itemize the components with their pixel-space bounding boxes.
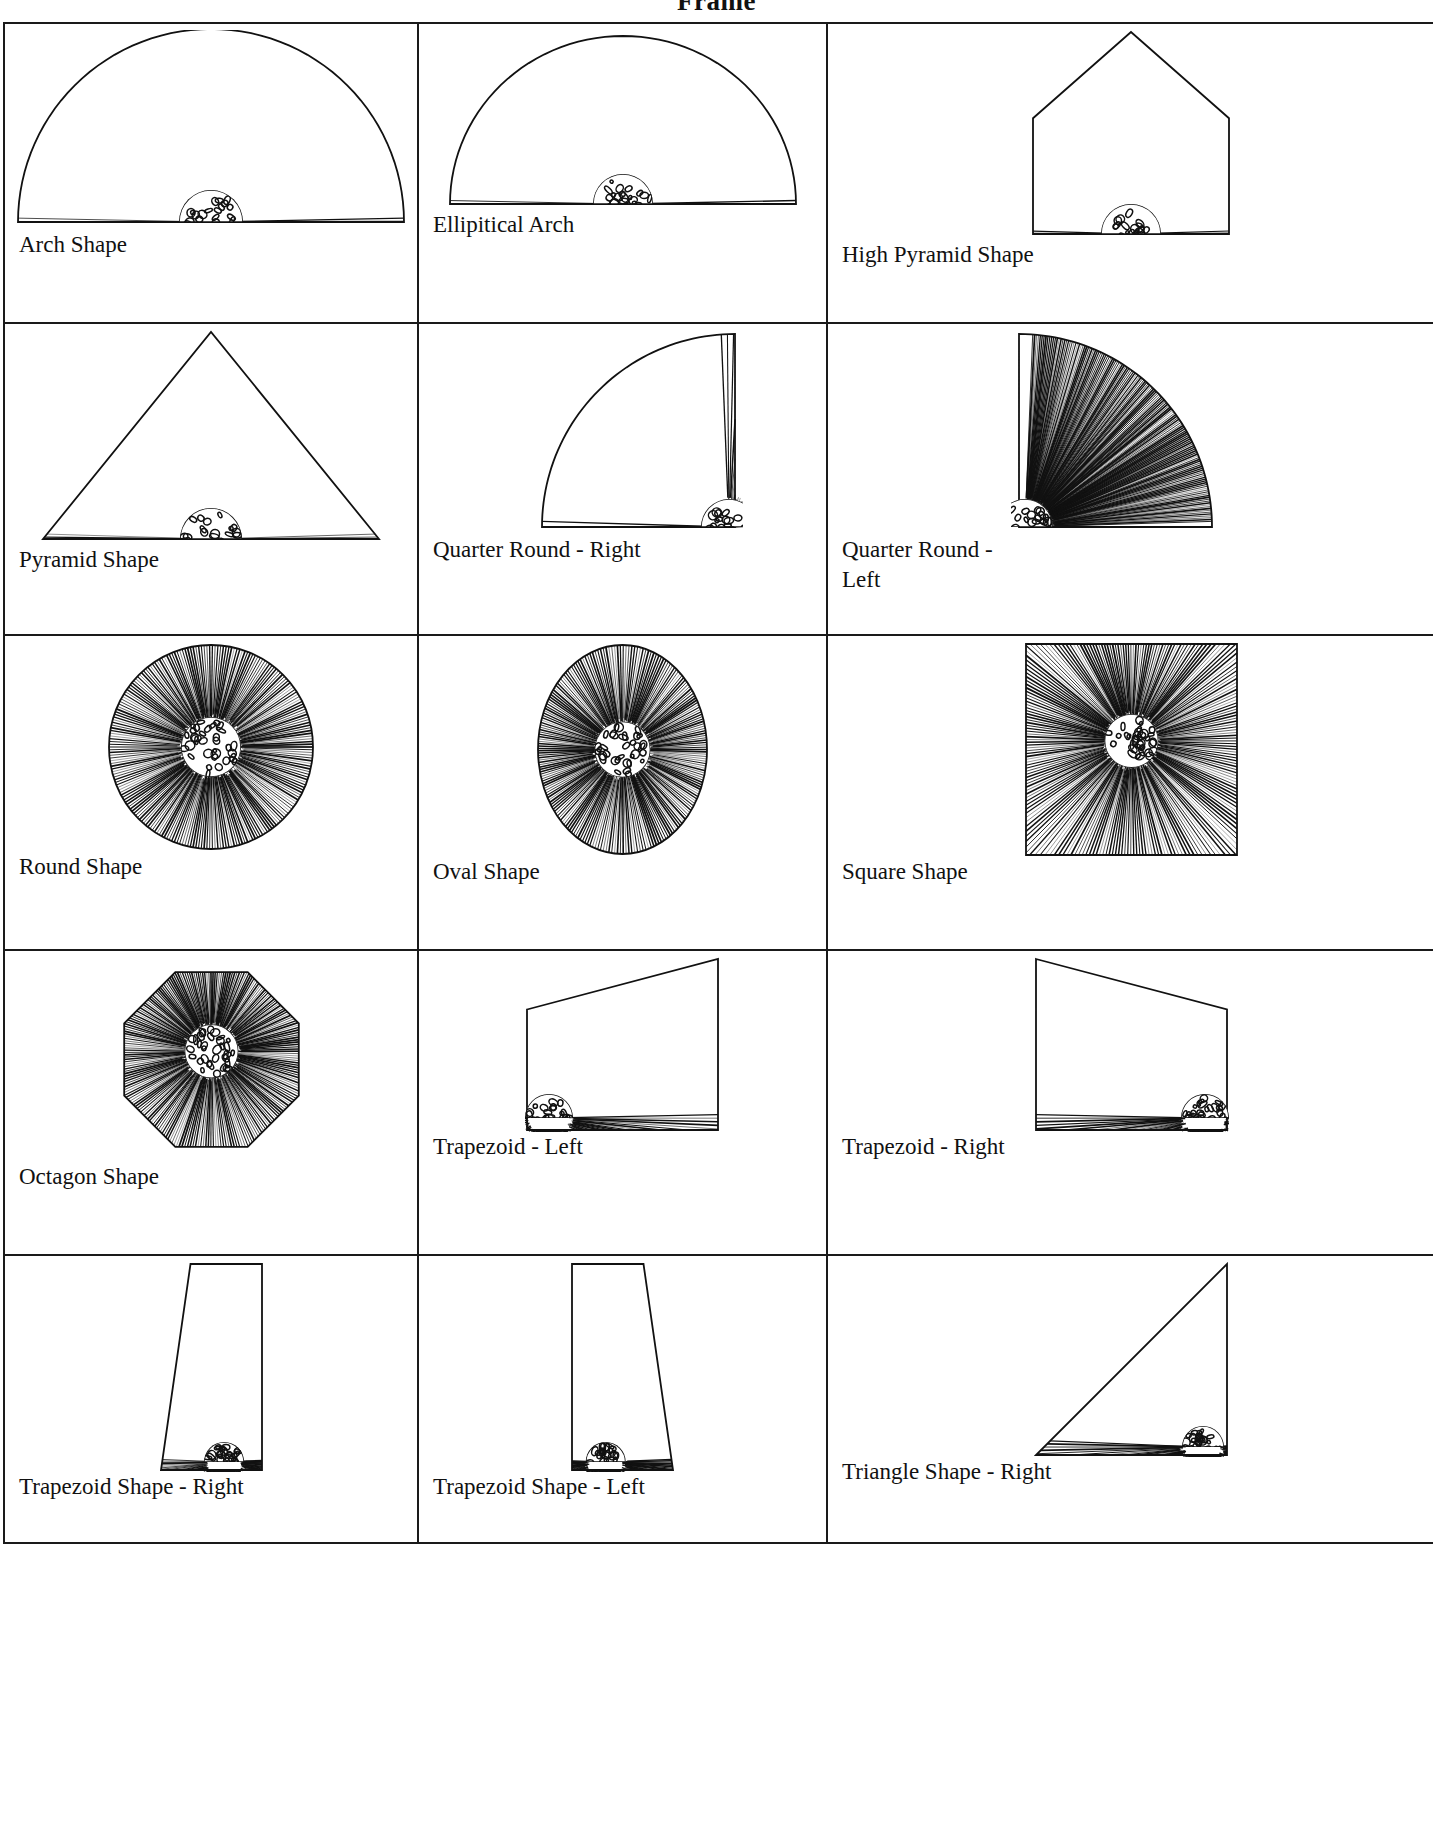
shape-art-trapezoid-right xyxy=(828,951,1433,1132)
shape-cell-elliptical-arch[interactable]: Ellipitical Arch xyxy=(418,23,827,323)
shape-label: Trapezoid - Right xyxy=(828,1132,1433,1176)
shape-label: Ellipitical Arch xyxy=(419,210,826,254)
shape-cell-trapezoid-right[interactable]: Trapezoid - Right xyxy=(827,950,1433,1255)
shape-cell-arch[interactable]: Arch Shape xyxy=(4,23,418,323)
shape-cell-oval[interactable]: Oval Shape xyxy=(418,635,827,950)
shape-art-high-pyramid xyxy=(828,24,1433,240)
table-row: Arch Shape Ellipitical Arch High Pyramid… xyxy=(4,23,1433,323)
shape-art-tall-trapezoid-right xyxy=(5,1256,417,1472)
shape-art-oval xyxy=(419,636,826,857)
shape-cell-high-pyramid[interactable]: High Pyramid Shape xyxy=(827,23,1433,323)
shape-art-square xyxy=(828,636,1433,857)
shape-cell-octagon[interactable]: Octagon Shape xyxy=(4,950,418,1255)
document-page: Frame Arch Shape Ellipitical Arch xyxy=(0,0,1433,1824)
shape-cell-square[interactable]: Square Shape xyxy=(827,635,1433,950)
shape-label: Triangle Shape - Right xyxy=(828,1457,1433,1501)
shape-label: Pyramid Shape xyxy=(5,545,417,589)
shape-label: Trapezoid Shape - Right xyxy=(5,1472,417,1516)
shape-label: Quarter Round - Right xyxy=(419,535,826,579)
shape-catalog-table: Arch Shape Ellipitical Arch High Pyramid… xyxy=(3,22,1433,1544)
shape-label: Trapezoid Shape - Left xyxy=(419,1472,826,1516)
shape-cell-pyramid[interactable]: Pyramid Shape xyxy=(4,323,418,635)
shape-label: Round Shape xyxy=(5,852,417,896)
shape-label: Quarter Round - Left xyxy=(828,535,1433,609)
shape-cell-trapezoid-left[interactable]: Trapezoid - Left xyxy=(418,950,827,1255)
shape-cell-round[interactable]: Round Shape xyxy=(4,635,418,950)
shape-cell-tall-trapezoid-right[interactable]: Trapezoid Shape - Right xyxy=(4,1255,418,1543)
shape-art-round xyxy=(5,636,417,852)
shape-cell-triangle-right[interactable]: Triangle Shape - Right xyxy=(827,1255,1433,1543)
shape-cell-quarter-round-left[interactable]: Quarter Round - Left xyxy=(827,323,1433,635)
shape-label: Square Shape xyxy=(828,857,1433,901)
shape-art-octagon xyxy=(5,951,417,1162)
shape-art-tall-trapezoid-left xyxy=(419,1256,826,1472)
table-row: Octagon Shape Trapezoid - Left Trapezoid… xyxy=(4,950,1433,1255)
shape-art-elliptical-arch xyxy=(419,24,826,210)
shape-label: High Pyramid Shape xyxy=(828,240,1433,284)
shape-art-quarter-round-right xyxy=(419,324,826,535)
table-body: Arch Shape Ellipitical Arch High Pyramid… xyxy=(4,23,1433,1543)
shape-art-triangle-right xyxy=(828,1256,1433,1457)
shape-label: Trapezoid - Left xyxy=(419,1132,826,1176)
page-title: Frame xyxy=(0,0,1433,16)
shape-cell-quarter-round-right[interactable]: Quarter Round - Right xyxy=(418,323,827,635)
shape-cell-tall-trapezoid-left[interactable]: Trapezoid Shape - Left xyxy=(418,1255,827,1543)
table-row: Round Shape Oval Shape Square Shape xyxy=(4,635,1433,950)
shape-label: Oval Shape xyxy=(419,857,826,901)
table-row: Trapezoid Shape - Right Trapezoid Shape … xyxy=(4,1255,1433,1543)
shape-art-pyramid xyxy=(5,324,417,545)
shape-art-trapezoid-left xyxy=(419,951,826,1132)
shape-art-quarter-round-left xyxy=(828,324,1433,535)
shape-art-arch xyxy=(5,24,417,230)
table-row: Pyramid Shape Quarter Round - Right Quar… xyxy=(4,323,1433,635)
shape-label: Arch Shape xyxy=(5,230,417,274)
shape-label: Octagon Shape xyxy=(5,1162,417,1206)
